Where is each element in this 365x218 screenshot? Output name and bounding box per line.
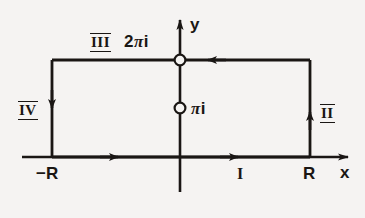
two-pi-i-prefix: 2: [124, 32, 134, 51]
segment-label-III: III: [90, 33, 111, 52]
two-pi-i-suffix: i: [144, 32, 149, 51]
tick-minus-R: −R: [36, 165, 58, 182]
point-pi-i-label: πi: [191, 100, 206, 117]
segment-label-IV: IV: [18, 101, 38, 120]
axis-label-y: y: [190, 16, 199, 33]
pi-i-suffix: i: [201, 99, 206, 118]
two-pi-i-pi-glyph: π: [134, 32, 144, 51]
segment-label-I: I: [237, 166, 243, 182]
point-two-pi-i-label: 2πi: [124, 33, 149, 50]
pi-i-pi-glyph: π: [191, 99, 201, 118]
segment-label-II: II: [320, 104, 335, 123]
diagram-canvas: [0, 0, 365, 218]
axis-label-x: x: [340, 164, 349, 181]
point-two-pi-i-marker: [175, 55, 186, 66]
point-pi-i-marker: [175, 103, 186, 114]
contour-diagram: 2πi πi x y −R R I II III IV: [0, 0, 365, 218]
tick-R: R: [303, 165, 315, 182]
